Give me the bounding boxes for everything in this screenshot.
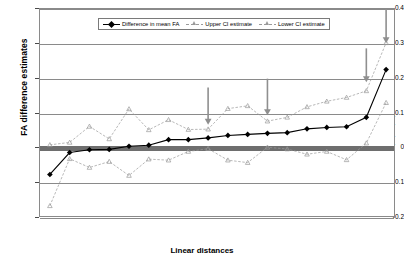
arrow-head-icon xyxy=(205,119,212,125)
legend-label: Difference in mean FA xyxy=(122,21,179,27)
arrow-4 xyxy=(383,9,390,43)
diamond-marker-icon xyxy=(108,20,115,27)
triangle-marker-icon xyxy=(265,21,269,25)
legend-item-difference-in-mean-fa: Difference in mean FA xyxy=(103,21,179,27)
legend-label: Upper CI estimate xyxy=(205,21,252,27)
arrow-head-icon xyxy=(264,109,271,115)
gridline xyxy=(40,218,394,219)
chart-legend: Difference in mean FA Upper CI estimate … xyxy=(98,18,330,30)
arrow-3 xyxy=(363,48,370,82)
plot-area xyxy=(39,8,395,217)
legend-line-dashed xyxy=(259,24,276,25)
x-axis-title: Linear distances xyxy=(0,246,404,255)
chart-container: FA difference estimates Linear distances… xyxy=(0,0,404,259)
arrow-head-icon xyxy=(383,37,390,43)
arrow-2 xyxy=(264,79,271,116)
legend-item-lower-ci-estimate: Lower CI estimate xyxy=(259,21,325,27)
legend-label: Lower CI estimate xyxy=(278,21,325,27)
arrow-1 xyxy=(205,87,212,124)
legend-line-dashed xyxy=(186,24,203,25)
y-tick-mark xyxy=(35,217,39,218)
legend-item-upper-ci-estimate: Upper CI estimate xyxy=(186,21,252,27)
legend-line-solid xyxy=(103,24,120,25)
annotation-arrows-layer xyxy=(40,9,396,218)
arrow-head-icon xyxy=(363,76,370,82)
y-axis-title: FA difference estimates xyxy=(19,17,29,157)
triangle-marker-icon xyxy=(192,21,196,25)
